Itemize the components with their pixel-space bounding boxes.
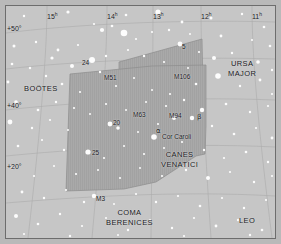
survey-polygon-main [66, 65, 206, 191]
star-chart: 15h 14h 13h 12h 11h +50° +40° +20° BOÖTE… [0, 0, 281, 244]
sky-canvas [6, 6, 275, 238]
chart-plate: 15h 14h 13h 12h 11h +50° +40° +20° BOÖTE… [5, 5, 276, 239]
survey-region [66, 39, 206, 191]
